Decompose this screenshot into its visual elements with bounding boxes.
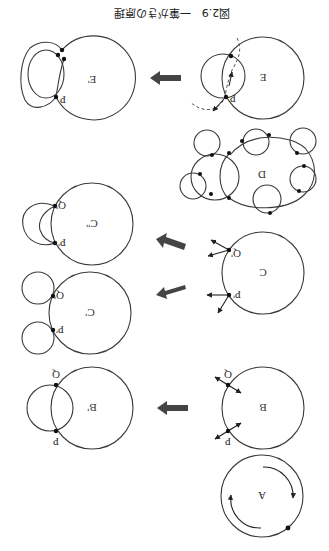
c-prime-node-p	[51, 328, 55, 332]
b-p-arrow-in-icon	[228, 423, 241, 431]
d-node	[297, 189, 301, 193]
b-prime-node-p	[54, 429, 58, 433]
e-prime-node-p	[54, 95, 58, 99]
panel-b-prime: Q P B'	[27, 367, 133, 449]
d-node	[268, 211, 272, 215]
a-arrow-clockwise-right-icon	[263, 467, 293, 498]
transition-arrow-b-icon	[157, 401, 188, 415]
c-dprime-label-p: P'	[58, 237, 66, 249]
b-prime-node-q	[54, 383, 58, 387]
panel-e-prime: P E'	[21, 36, 136, 120]
transition-arrow-c-lower-icon	[156, 285, 186, 299]
d-label: D	[258, 169, 266, 181]
c-prime-label-q: Q'	[54, 290, 64, 302]
e-prime-connector	[56, 59, 64, 97]
c-dprime-label: C''	[86, 218, 97, 230]
panel-b: Q P B	[215, 367, 304, 449]
e-prime-label: E'	[88, 74, 97, 86]
e-direction-arrow-down-icon	[213, 99, 224, 111]
d-node	[198, 172, 202, 176]
c-label-q: Q'	[231, 248, 241, 260]
c-dprime-node-p	[53, 241, 57, 245]
b-node-q	[226, 383, 230, 387]
b-q-arrow-in-icon	[228, 385, 241, 393]
b-label-p: P	[225, 436, 231, 448]
e-prime-inner-circle	[28, 50, 64, 98]
figure-caption: 図2.9 一筆がきの原理	[114, 6, 231, 20]
b-prime-loop-circle	[27, 385, 73, 431]
panel-e: P E	[190, 37, 304, 119]
c-label: C	[259, 267, 266, 279]
e-node-top	[229, 54, 233, 58]
b-prime-label: B'	[87, 402, 96, 414]
e-small-circle	[201, 54, 245, 98]
d-main-outline	[229, 137, 314, 208]
c-p-arrow-2-icon	[218, 295, 229, 313]
panel-c-double-prime: Q' P' C''	[23, 183, 133, 265]
c-node-q	[227, 248, 231, 252]
d-node	[295, 151, 299, 155]
d-node	[240, 139, 244, 143]
e-prime-label-p: P	[60, 94, 66, 106]
e-prime-node-3	[62, 57, 66, 61]
d-node	[227, 196, 231, 200]
d-loop-5	[290, 166, 316, 192]
d-node	[209, 192, 213, 196]
d-loop-6	[253, 185, 281, 213]
b-label-q: Q	[224, 369, 232, 381]
b-label: B	[259, 402, 266, 414]
d-loop-1	[194, 130, 220, 156]
c-prime-label-p: P'	[56, 324, 64, 336]
figure-2-9-diagram: 図2.9 一筆がきの原理 P E P E'	[0, 0, 329, 551]
e-node-p	[224, 95, 228, 99]
panel-a: A	[221, 455, 303, 537]
c-label-p: P'	[233, 289, 241, 301]
panel-d: D	[180, 128, 316, 215]
panel-c: Q' P' C	[207, 232, 304, 314]
c-prime-loop-bottom	[22, 322, 54, 354]
c-q-arrow-1-icon	[211, 240, 229, 250]
e-prime-node-2	[56, 53, 60, 57]
d-inner-chord	[220, 154, 229, 199]
c-node-p	[227, 293, 231, 297]
b-prime-label-q: Q	[52, 369, 60, 381]
b-node-p	[226, 429, 230, 433]
a-start-node	[286, 526, 291, 531]
a-label: A	[258, 490, 266, 502]
d-node	[302, 164, 306, 168]
b-prime-label-p: P	[53, 436, 59, 448]
c-prime-loop-top	[22, 272, 54, 304]
e-prime-node-1	[60, 48, 64, 52]
a-arrow-clockwise-left-icon	[231, 495, 261, 528]
d-node	[267, 133, 271, 137]
transition-arrow-c-upper-icon	[156, 233, 186, 250]
c-dprime-label-q: Q'	[56, 200, 66, 212]
e-label-p: P	[230, 93, 236, 105]
c-dprime-outer-arc	[23, 203, 55, 244]
e-label: E	[259, 72, 266, 84]
transition-arrow-e-icon	[150, 71, 181, 85]
e-direction-arrow-up-icon	[229, 72, 232, 86]
d-left-ellipse	[191, 154, 239, 200]
d-node	[210, 153, 214, 157]
d-node	[227, 151, 231, 155]
c-prime-label: C'	[85, 307, 94, 319]
panel-c-prime: Q' P' C'	[22, 272, 131, 354]
